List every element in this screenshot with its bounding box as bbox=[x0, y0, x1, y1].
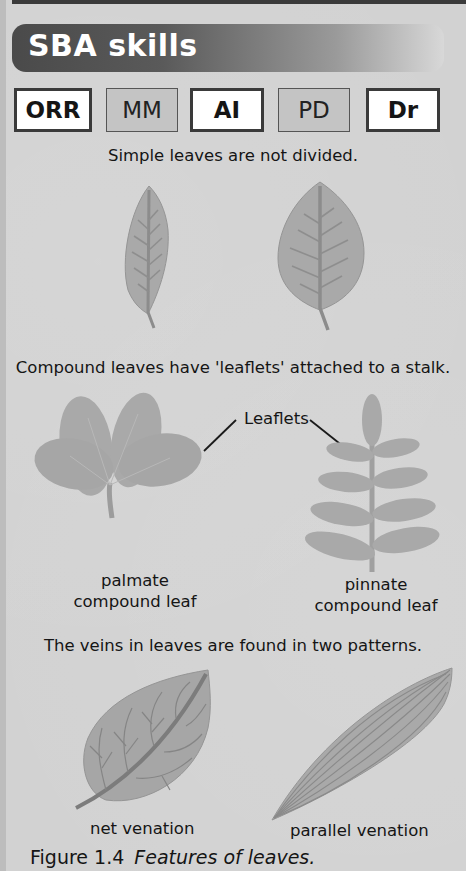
palmate-label: palmate compound leaf bbox=[70, 570, 200, 612]
venation-caption: The veins in leaves are found in two pat… bbox=[0, 636, 466, 655]
net-venation-label: net venation bbox=[90, 818, 194, 839]
pinnate-label: pinnate compound leaf bbox=[306, 574, 446, 616]
figure-number: Figure 1.4 bbox=[30, 846, 124, 868]
parallel-venation-label: parallel venation bbox=[290, 820, 429, 841]
figure-title: Features of leaves. bbox=[134, 846, 315, 868]
parallel-venation-leaf-icon bbox=[262, 664, 462, 824]
figure-caption: Figure 1.4Features of leaves. bbox=[30, 846, 315, 868]
pinnate-label-line1: pinnate bbox=[306, 574, 446, 595]
leaflets-label: Leaflets bbox=[244, 408, 309, 429]
net-venation-leaf-icon bbox=[66, 668, 216, 810]
pinnate-compound-leaf-icon bbox=[308, 390, 438, 575]
pinnate-label-line2: compound leaf bbox=[306, 595, 446, 616]
palmate-label-line2: compound leaf bbox=[70, 591, 200, 612]
palmate-label-line1: palmate bbox=[70, 570, 200, 591]
